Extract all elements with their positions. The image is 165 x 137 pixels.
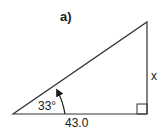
angle-arrow <box>58 92 65 114</box>
base-length-label: 43.0 <box>65 116 89 130</box>
triangle-diagram: a) 33° 43.0 x <box>0 0 165 137</box>
angle-label: 33° <box>38 99 56 113</box>
side-x-label: x <box>151 69 157 83</box>
figure-label: a) <box>60 9 72 24</box>
right-angle-marker <box>137 104 147 114</box>
right-triangle <box>13 22 147 114</box>
